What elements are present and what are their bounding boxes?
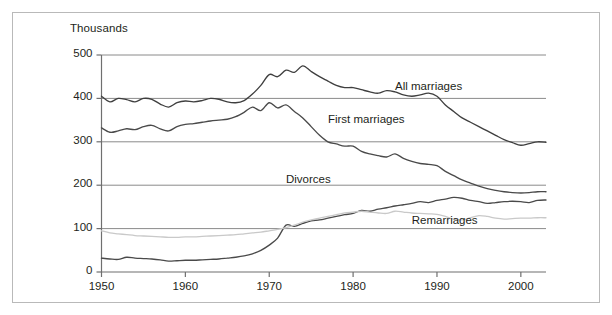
x-tick-label: 2000 — [498, 280, 544, 292]
y-tick-label: 0 — [59, 264, 93, 276]
series-label-remarriages: Remarriages — [412, 214, 478, 226]
series-line-all-marriages — [102, 66, 547, 145]
axes — [102, 55, 547, 272]
chart-figure: Thousands 0100200300400500 1950196019701… — [0, 0, 612, 315]
series-label-all-marriages: All marriages — [395, 80, 462, 92]
series-label-first-marriages: First marriages — [328, 113, 405, 125]
y-tick-label: 200 — [59, 177, 93, 189]
y-tick-label: 300 — [59, 134, 93, 146]
y-tick-label: 100 — [59, 221, 93, 233]
x-tick-label: 1980 — [330, 280, 376, 292]
series-line-remarriages — [102, 211, 547, 237]
series-line-divorces — [102, 197, 547, 261]
x-tick-label: 1960 — [162, 280, 208, 292]
y-tick-label: 500 — [59, 47, 93, 59]
x-tick-label: 1990 — [414, 280, 460, 292]
gridlines — [102, 55, 547, 229]
x-tick-label: 1950 — [79, 280, 125, 292]
y-tick-label: 400 — [59, 90, 93, 102]
series-lines — [102, 66, 547, 261]
x-tick-label: 1970 — [246, 280, 292, 292]
series-label-divorces: Divorces — [286, 173, 331, 185]
